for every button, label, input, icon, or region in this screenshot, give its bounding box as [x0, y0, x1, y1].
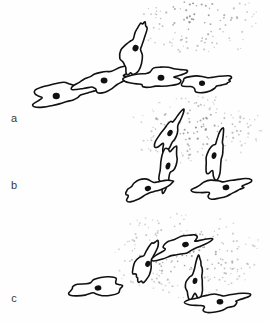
gradient-dot [238, 246, 240, 248]
gradient-dot [181, 36, 182, 37]
gradient-dot [201, 126, 203, 128]
gradient-dot [158, 102, 159, 103]
gradient-dot [160, 265, 162, 267]
gradient-dot [185, 215, 186, 216]
gradient-dot [176, 256, 177, 257]
gradient-dot [154, 42, 156, 44]
gradient-dot [251, 26, 253, 28]
gradient-dot [157, 151, 159, 153]
gradient-dot [185, 98, 187, 100]
gradient-dot [204, 277, 206, 279]
gradient-dot [155, 118, 157, 120]
gradient-dot [184, 265, 186, 267]
gradient-dot [240, 48, 241, 49]
gradient-dot [225, 159, 227, 161]
gradient-dot [238, 134, 240, 136]
gradient-dot [253, 264, 255, 266]
gradient-dot [161, 273, 162, 274]
gradient-dot [188, 118, 190, 120]
gradient-dot [154, 234, 156, 236]
cell-outline [190, 174, 253, 202]
gradient-dot [127, 241, 128, 242]
gradient-dot [180, 162, 181, 163]
gradient-dot [164, 124, 166, 126]
gradient-dot [189, 21, 191, 23]
gradient-dot [259, 130, 261, 132]
cell-nucleus [158, 75, 165, 81]
gradient-dot [205, 38, 207, 40]
gradient-dot [239, 121, 241, 123]
gradient-dot [183, 218, 185, 220]
gradient-dot [231, 262, 233, 264]
gradient-dot [223, 17, 225, 19]
gradient-dot [210, 107, 211, 108]
gradient-dot [142, 149, 144, 151]
gradient-dot [251, 16, 253, 18]
gradient-dot [255, 11, 257, 13]
gradient-dot [244, 4, 246, 6]
gradient-dot [220, 20, 222, 22]
gradient-dot [192, 3, 193, 4]
gradient-dot [186, 17, 188, 19]
gradient-dot [248, 237, 250, 239]
gradient-dot [218, 126, 219, 127]
gradient-dot [150, 37, 152, 39]
gradient-dot [181, 98, 183, 100]
gradient-dot [198, 96, 199, 97]
gradient-dot [221, 123, 222, 124]
cell [190, 174, 253, 202]
gradient-dot [157, 230, 159, 232]
gradient-dot [180, 8, 181, 9]
gradient-dot [205, 117, 207, 119]
gradient-dot [241, 31, 243, 33]
gradient-dot [196, 45, 198, 47]
gradient-dot [167, 279, 169, 281]
gradient-dot [174, 32, 175, 33]
gradient-dot [149, 239, 150, 240]
gradient-dot [169, 282, 171, 284]
gradient-dot [189, 3, 191, 5]
gradient-dot [177, 261, 179, 263]
gradient-dot [209, 108, 211, 110]
gradient-dot [218, 279, 220, 281]
gradient-dot [156, 11, 157, 12]
gradient-dot [195, 102, 197, 104]
gradient-dot [176, 213, 178, 215]
gradient-dot [148, 148, 150, 150]
cell-group-b [122, 105, 254, 203]
gradient-dot [222, 259, 224, 261]
gradient-dot [230, 273, 231, 274]
gradient-dot [220, 258, 222, 260]
cell-layer [30, 17, 254, 315]
gradient-dot [237, 259, 239, 261]
gradient-dot [123, 274, 125, 276]
panel-label-layer: abc [11, 112, 18, 304]
gradient-dot [155, 17, 156, 18]
cell [67, 275, 123, 300]
gradient-dot [174, 8, 176, 10]
cell-group-a [30, 17, 233, 109]
gradient-dot [186, 230, 187, 231]
gradient-dot [144, 224, 146, 226]
gradient-dot [208, 138, 209, 139]
gradient-dot [187, 132, 189, 134]
gradient-dot [171, 261, 172, 262]
gradient-dot [217, 131, 219, 133]
gradient-dot [216, 108, 217, 109]
gradient-dot [240, 141, 241, 142]
gradient-dot [257, 239, 258, 240]
gradient-dot [139, 222, 141, 224]
gradient-dot [207, 259, 209, 261]
gradient-dot [145, 217, 147, 219]
gradient-dot [232, 223, 234, 225]
gradient-dot [236, 17, 238, 19]
gradient-dot [183, 45, 184, 46]
gradient-dot [191, 268, 192, 269]
gradient-dot [189, 109, 191, 111]
gradient-dot [114, 252, 115, 253]
gradient-dot [224, 145, 226, 147]
gradient-dot [165, 11, 167, 13]
gradient-dot [155, 13, 156, 14]
gradient-dot [204, 42, 206, 44]
gradient-dot [216, 289, 218, 291]
